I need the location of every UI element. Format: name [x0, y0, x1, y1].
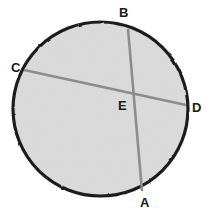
circle-fill-grain [16, 25, 186, 194]
vertex-label-B: B [119, 6, 128, 19]
vertex-label-E: E [118, 99, 127, 112]
geometry-figure: B C D E A [0, 0, 212, 219]
vertex-label-C: C [11, 61, 20, 74]
vertex-label-D: D [192, 101, 201, 114]
vertex-label-A: A [140, 196, 149, 209]
geometry-canvas [0, 0, 212, 219]
